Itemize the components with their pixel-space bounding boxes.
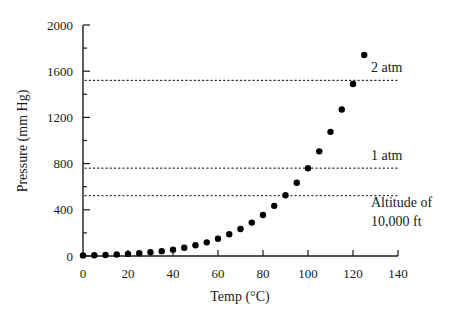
data-point — [102, 252, 108, 258]
data-point — [305, 165, 311, 171]
x-tick-label: 20 — [122, 266, 135, 281]
y-tick-label: 2000 — [47, 18, 73, 33]
data-point — [181, 244, 187, 250]
x-tick-label: 140 — [388, 266, 408, 281]
reference-line-label: 2 atm — [371, 60, 403, 75]
y-tick-label: 1600 — [47, 64, 73, 79]
data-point — [260, 212, 266, 218]
reference-line-labels: 2 atm1 atmAltitude of10,000 ft — [371, 60, 432, 228]
data-point — [294, 180, 300, 186]
x-tick-label: 60 — [212, 266, 225, 281]
data-point — [125, 251, 131, 257]
data-point — [237, 226, 243, 232]
x-axis-title: Temp (°C) — [210, 289, 270, 305]
data-point — [339, 106, 345, 112]
chart-canvas: 0400800120016002000020406080100120140 2 … — [0, 0, 460, 320]
data-point — [316, 148, 322, 154]
data-point — [159, 248, 165, 254]
x-tick-label: 0 — [80, 266, 87, 281]
reference-line-label: Altitude of — [371, 195, 432, 210]
data-point — [350, 81, 356, 87]
x-tick-label: 120 — [343, 266, 363, 281]
data-points — [80, 52, 368, 259]
data-point — [91, 252, 97, 258]
data-point — [249, 219, 255, 225]
data-point — [226, 231, 232, 237]
y-tick-label: 400 — [54, 202, 74, 217]
data-point — [271, 203, 277, 209]
data-point — [80, 252, 86, 258]
x-tick-label: 40 — [167, 266, 180, 281]
reference-line-label: 1 atm — [371, 148, 403, 163]
data-point — [114, 251, 120, 257]
axes: 0400800120016002000020406080100120140 — [47, 18, 408, 282]
y-tick-label: 800 — [54, 156, 74, 171]
reference-lines — [85, 80, 398, 195]
data-point — [215, 236, 221, 242]
data-point — [170, 246, 176, 252]
y-axis-title: Pressure (mm Hg) — [15, 89, 31, 192]
data-point — [282, 192, 288, 198]
y-tick-label: 0 — [67, 249, 74, 264]
data-point — [136, 250, 142, 256]
x-tick-label: 80 — [257, 266, 270, 281]
data-point — [204, 239, 210, 245]
reference-line-label: 10,000 ft — [371, 214, 422, 229]
data-point — [192, 242, 198, 248]
data-point — [327, 129, 333, 135]
data-point — [361, 52, 367, 58]
y-tick-label: 1200 — [47, 110, 73, 125]
x-tick-label: 100 — [298, 266, 318, 281]
data-point — [147, 249, 153, 255]
